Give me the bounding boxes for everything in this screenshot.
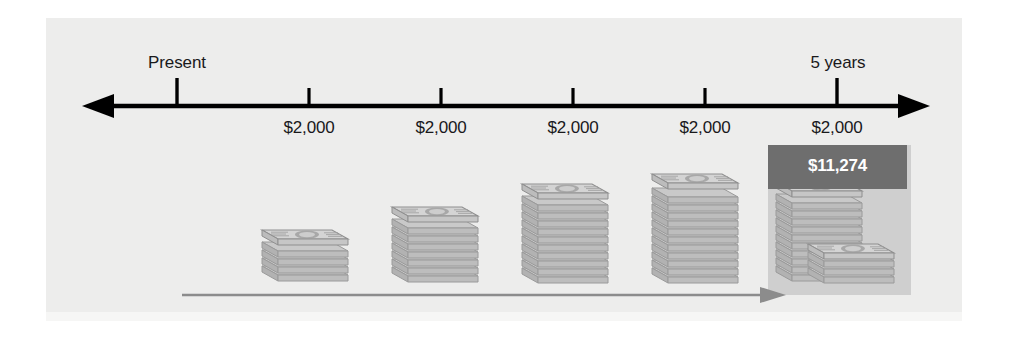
arrow-left-icon [82,94,114,118]
payment-label-1: $2,000 [284,118,335,138]
payment-label-5: $2,000 [812,118,863,138]
timeline-end-label: 5 years [810,53,865,73]
payment-label-4: $2,000 [680,118,731,138]
timeline-start-label: Present [148,53,206,73]
arrow-right-icon [898,94,930,118]
payment-label-3: $2,000 [548,118,599,138]
timeline-figure: $11,274 Present 5 years $2,000 $2,000 $2… [0,0,1015,352]
payment-label-2: $2,000 [416,118,467,138]
